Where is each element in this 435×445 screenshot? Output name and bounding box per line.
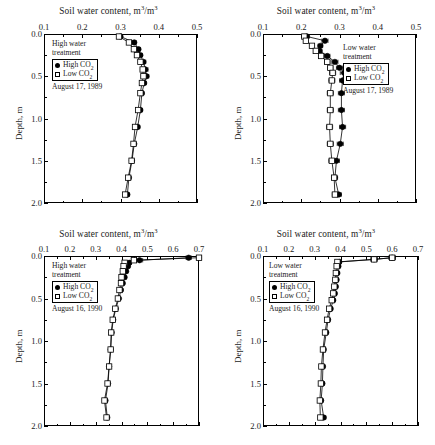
- legend-label: Low CO2: [63, 70, 92, 79]
- data-point-high-co2: [322, 38, 327, 43]
- data-point-low-co2: [135, 107, 140, 112]
- x-axis-tick-label: 0.7: [194, 244, 205, 254]
- panel-axis-title: Soil water content, m3/m3: [0, 6, 217, 16]
- legend: Low watertreatmentHigh CO2Low CO2August …: [269, 262, 319, 314]
- data-point-low-co2: [126, 40, 131, 45]
- data-point-low-co2: [318, 381, 323, 386]
- data-point-low-co2: [132, 124, 137, 129]
- open-square-icon: [346, 76, 351, 81]
- data-point-high-co2: [132, 40, 137, 45]
- x-axis-tick-label: 0.5: [411, 22, 422, 32]
- x-axis-tick-label: 0.4: [116, 244, 127, 254]
- filled-circle-icon: [55, 63, 60, 68]
- y-axis-label: Depth, m: [14, 330, 24, 364]
- filled-circle-icon: [272, 285, 277, 290]
- x-axis-tick-major: [418, 256, 419, 260]
- legend-entry-low-co2: Low CO2: [55, 70, 93, 79]
- data-point-low-co2: [115, 296, 120, 301]
- legend-entry-low-co2: Low CO2: [346, 74, 384, 83]
- data-point-low-co2: [196, 255, 201, 260]
- y-axis-tick-label: 2.0: [24, 198, 42, 208]
- x-axis-tick-label: 0.4: [335, 244, 346, 254]
- data-point-low-co2: [317, 398, 322, 403]
- panel-top-right: Soil water content, m3/m3Depth, m0.10.20…: [217, 0, 435, 223]
- panel-bottom-left: Soil water content, m3/m3Depth, m0.10.20…: [0, 223, 217, 445]
- data-point-low-co2: [139, 80, 144, 85]
- y-axis-tick-label: 0.5: [24, 294, 42, 304]
- y-axis-tick-label: 0.0: [243, 251, 261, 261]
- legend-date: August 16, 1990: [269, 305, 319, 314]
- x-axis-tick-label: 0.4: [153, 22, 164, 32]
- data-point-low-co2: [140, 67, 145, 72]
- data-point-low-co2: [332, 192, 337, 197]
- data-point-low-co2: [105, 381, 110, 386]
- data-point-low-co2: [121, 264, 126, 269]
- y-axis-tick-label: 1.5: [243, 156, 261, 166]
- x-axis-tick-major: [197, 34, 198, 38]
- x-axis-tick-label: 0.7: [413, 244, 424, 254]
- open-square-icon: [55, 72, 60, 77]
- y-axis-tick-label: 1.0: [243, 114, 261, 124]
- panel-axis-title: Soil water content, m3/m3: [217, 229, 435, 239]
- data-point-low-co2: [138, 90, 143, 95]
- data-point-low-co2: [329, 78, 334, 83]
- series-low-co2: [302, 34, 338, 197]
- y-axis-tick-label: 0.0: [243, 29, 261, 39]
- y-axis-label: Depth, m: [14, 107, 24, 141]
- open-square-icon: [272, 294, 277, 299]
- y-axis-tick-label: 1.5: [24, 156, 42, 166]
- legend-label-subscript: 2: [89, 295, 92, 301]
- series-high-co2: [118, 34, 149, 197]
- x-axis-tick-label: 0.2: [296, 22, 307, 32]
- data-point-low-co2: [108, 330, 113, 335]
- x-axis-tick-label: 0.3: [115, 22, 126, 32]
- axis-title-prefix: Soil water content, m: [277, 6, 359, 16]
- legend-date: August 17, 1989: [52, 83, 102, 92]
- legend-label: Low CO2: [63, 292, 92, 301]
- data-point-low-co2: [324, 317, 329, 322]
- legend-entry-low-co2: Low CO2: [272, 292, 310, 301]
- data-point-low-co2: [120, 269, 125, 274]
- legend-date: August 16, 1990: [52, 305, 102, 314]
- y-axis-tick-label: 0.5: [243, 294, 261, 304]
- legend-key-box: High CO2Low CO2: [343, 63, 389, 85]
- x-axis-tick-label: 0.6: [168, 244, 179, 254]
- data-point-low-co2: [108, 347, 113, 352]
- data-point-low-co2: [138, 59, 143, 64]
- data-point-low-co2: [141, 74, 146, 79]
- legend-treatment-line-2: treatment: [269, 271, 319, 280]
- data-point-low-co2: [328, 65, 333, 70]
- y-axis-tick-major: [44, 426, 48, 427]
- data-point-low-co2: [326, 306, 331, 311]
- legend-label-subscript: 2: [380, 77, 383, 83]
- y-axis-tick-major: [263, 203, 267, 204]
- x-axis-tick-major: [416, 34, 417, 38]
- axis-title-superscript-2: 3: [372, 227, 375, 234]
- legend-key-box: High CO2Low CO2: [52, 281, 98, 303]
- axis-title-superscript-2: 3: [154, 4, 157, 11]
- y-axis-label: Depth, m: [233, 107, 243, 141]
- x-axis-tick-label: 0.3: [309, 244, 320, 254]
- data-point-low-co2: [319, 364, 324, 369]
- y-axis-tick-label: 1.0: [24, 336, 42, 346]
- y-axis-tick-label: 2.0: [24, 421, 42, 431]
- axis-title-mid: /m: [144, 6, 154, 16]
- panel-axis-title: Soil water content, m3/m3: [0, 229, 217, 239]
- figure-panel-grid: Soil water content, m3/m3Depth, m0.10.20…: [0, 0, 435, 445]
- series-high-co2: [318, 255, 395, 420]
- panel-top-left: Soil water content, m3/m3Depth, m0.10.20…: [0, 0, 217, 223]
- series-line: [321, 258, 392, 418]
- data-point-high-co2: [339, 107, 344, 112]
- data-point-low-co2: [328, 107, 333, 112]
- x-axis-tick-label: 0.2: [64, 244, 75, 254]
- x-axis-tick-label: 0.2: [77, 22, 88, 32]
- data-point-low-co2: [129, 158, 134, 163]
- data-point-low-co2: [389, 255, 394, 260]
- legend: Low watertreatmentHigh CO2Low CO2August …: [343, 44, 393, 96]
- x-axis-tick-label: 0.5: [361, 244, 372, 254]
- y-axis-tick-label: 0.5: [24, 71, 42, 81]
- y-axis-tick-label: 1.0: [24, 114, 42, 124]
- x-axis-tick-bottom: [418, 422, 419, 426]
- data-point-low-co2: [325, 59, 330, 64]
- data-point-low-co2: [309, 43, 314, 48]
